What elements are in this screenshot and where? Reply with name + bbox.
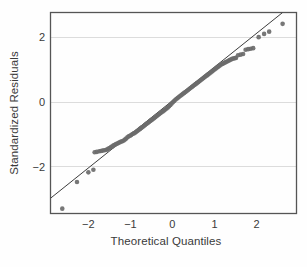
data-point	[256, 35, 261, 40]
data-point	[267, 29, 272, 34]
x-tick-label-3: 1	[211, 218, 217, 230]
data-point	[241, 52, 246, 57]
y-axis-title: Standardized Residuals	[8, 51, 20, 175]
data-point	[251, 46, 256, 51]
data-point	[75, 180, 80, 185]
data-point	[60, 206, 65, 211]
x-tick-label-0: −2	[82, 218, 95, 230]
plot-background	[0, 0, 307, 267]
qq-plot-svg: −2−1012 20−2 Theoretical Quantiles Stand…	[0, 0, 307, 267]
x-tick-label-2: 0	[169, 218, 175, 230]
x-tick-label-1: −1	[124, 218, 137, 230]
y-tick-label-2: −2	[32, 161, 45, 173]
y-tick-label-1: 0	[39, 96, 45, 108]
qq-plot-figure: −2−1012 20−2 Theoretical Quantiles Stand…	[0, 0, 307, 267]
data-point	[280, 22, 285, 27]
x-axis-title: Theoretical Quantiles	[111, 235, 222, 247]
x-tick-label-4: 2	[254, 218, 260, 230]
y-tick-label-0: 2	[39, 31, 45, 43]
data-point	[91, 167, 96, 172]
data-point	[262, 32, 267, 37]
data-point	[86, 170, 91, 175]
